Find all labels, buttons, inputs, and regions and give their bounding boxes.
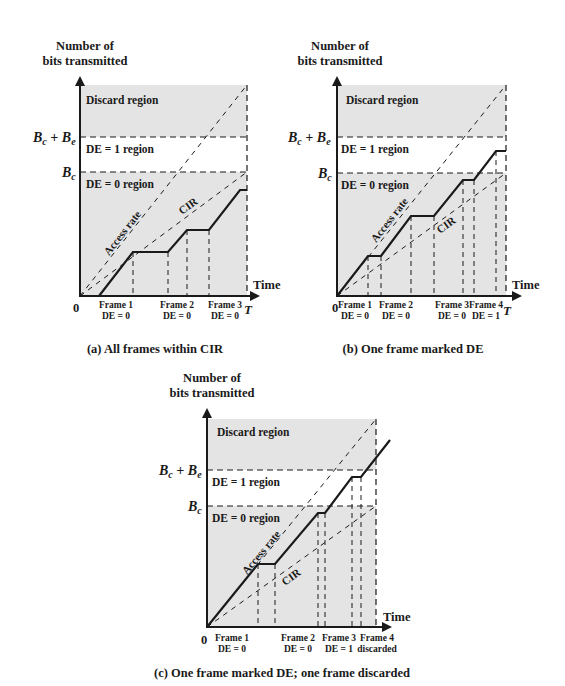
svg-text:DE = 0: DE = 0 bbox=[284, 644, 312, 654]
y-axis-label-1: Number of bbox=[183, 371, 242, 385]
y-axis-label-1: Number of bbox=[56, 39, 115, 53]
bcbe-label: Bc + Be bbox=[158, 463, 202, 480]
bcbe-label: Bc + Be bbox=[287, 130, 331, 147]
caption-b: (b) One frame marked DE bbox=[343, 342, 484, 356]
svg-text:Frame 2: Frame 2 bbox=[281, 633, 315, 643]
y-axis-label-2: bits transmitted bbox=[169, 386, 254, 400]
caption-c: (c) One frame marked DE; one frame disca… bbox=[154, 666, 410, 680]
y-axis-label-2: bits transmitted bbox=[42, 54, 127, 68]
de0-region-label: DE = 0 region bbox=[212, 512, 281, 525]
y-axis-label-2: bits transmitted bbox=[297, 54, 382, 68]
svg-text:Frame 1: Frame 1 bbox=[215, 633, 249, 643]
panel-c: Number of bits transmitted Discard regio… bbox=[154, 371, 411, 680]
de1-region-label: DE = 1 region bbox=[86, 143, 155, 156]
frame-labels: Frame 1 DE = 0 Frame 2 DE = 0 Frame 3 DE… bbox=[338, 300, 503, 321]
svg-text:Frame 2: Frame 2 bbox=[379, 300, 413, 310]
panel-a: Number of bits transmitted Discard regio… bbox=[32, 39, 281, 356]
svg-text:Frame 2: Frame 2 bbox=[160, 300, 194, 310]
x-axis-label: Time bbox=[383, 610, 411, 624]
discard-region-label: Discard region bbox=[217, 426, 290, 439]
svg-text:DE = 1: DE = 1 bbox=[472, 311, 500, 321]
origin-label: 0 bbox=[73, 301, 79, 315]
x-axis-label: Time bbox=[512, 278, 540, 292]
svg-text:DE = 0: DE = 0 bbox=[438, 311, 466, 321]
svg-text:Frame 1: Frame 1 bbox=[338, 300, 372, 310]
discard-region-shade bbox=[337, 85, 506, 137]
discard-region-label: Discard region bbox=[346, 94, 419, 107]
svg-text:discarded: discarded bbox=[357, 644, 397, 654]
svg-text:DE = 0: DE = 0 bbox=[218, 644, 246, 654]
origin-label: 0 bbox=[201, 633, 207, 647]
bc-label: Bc bbox=[61, 165, 76, 182]
x-axis-label: Time bbox=[253, 278, 281, 292]
svg-text:DE = 0: DE = 0 bbox=[341, 311, 369, 321]
discard-region-shade bbox=[80, 85, 247, 137]
panel-b: Number of bits transmitted Discard regio… bbox=[287, 39, 540, 356]
T-label: T bbox=[244, 302, 253, 317]
svg-text:Frame 4: Frame 4 bbox=[360, 633, 394, 643]
caption-a: (a) All frames within CIR bbox=[87, 342, 224, 356]
svg-text:DE = 0: DE = 0 bbox=[211, 311, 239, 321]
discard-region-label: Discard region bbox=[86, 94, 159, 107]
svg-text:Frame 4: Frame 4 bbox=[469, 300, 503, 310]
svg-text:Frame 3: Frame 3 bbox=[208, 300, 242, 310]
svg-text:Frame 3: Frame 3 bbox=[322, 633, 356, 643]
de0-region-label: DE = 0 region bbox=[341, 179, 410, 192]
frame-relay-diagram: Number of bits transmitted Discard regio… bbox=[0, 0, 565, 686]
svg-text:Frame 3: Frame 3 bbox=[435, 300, 469, 310]
frame-labels: Frame 1 DE = 0 Frame 2 DE = 0 Frame 3 DE… bbox=[215, 633, 398, 654]
frame-labels: Frame 1 DE = 0 Frame 2 DE = 0 Frame 3 DE… bbox=[99, 300, 242, 321]
svg-text:DE = 0: DE = 0 bbox=[163, 311, 191, 321]
de0-region-label: DE = 0 region bbox=[86, 178, 155, 191]
y-axis-label-1: Number of bbox=[311, 39, 370, 53]
svg-text:DE = 0: DE = 0 bbox=[102, 311, 130, 321]
svg-text:Frame 1: Frame 1 bbox=[99, 300, 133, 310]
bc-label: Bc bbox=[187, 499, 202, 516]
de1-region-label: DE = 1 region bbox=[341, 143, 410, 156]
de1-region-label: DE = 1 region bbox=[212, 476, 281, 489]
svg-text:DE = 1: DE = 1 bbox=[325, 644, 353, 654]
bcbe-label: Bc + Be bbox=[32, 130, 76, 147]
svg-text:DE = 0: DE = 0 bbox=[382, 311, 410, 321]
bc-label: Bc bbox=[317, 166, 332, 183]
T-label: T bbox=[503, 303, 512, 318]
